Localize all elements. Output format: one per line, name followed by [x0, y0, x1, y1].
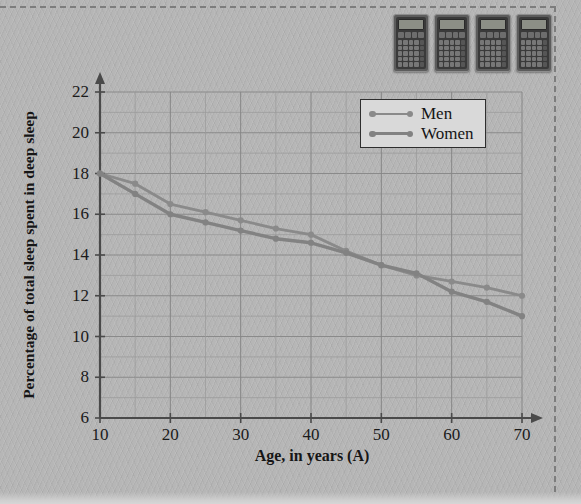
data-point — [167, 211, 173, 217]
chart-legend: MenWomen — [360, 99, 486, 148]
y-tick-label: 22 — [0, 82, 89, 102]
data-point — [238, 217, 244, 223]
x-tick-label: 10 — [80, 425, 120, 445]
data-point — [273, 236, 279, 242]
data-point — [484, 299, 490, 305]
line-chart: Percentage of total sleep spent in deep … — [0, 0, 581, 504]
y-tick-label: 18 — [0, 164, 89, 184]
data-point — [484, 285, 490, 291]
data-point — [238, 227, 244, 233]
data-point — [97, 170, 103, 176]
data-point — [167, 201, 173, 207]
legend-item-women: Women — [369, 125, 473, 142]
x-tick-label: 50 — [361, 425, 401, 445]
y-tick-label: 12 — [0, 286, 89, 306]
data-point — [413, 270, 419, 276]
data-point — [132, 181, 138, 187]
data-point — [202, 219, 208, 225]
x-tick-label: 60 — [432, 425, 472, 445]
data-point — [519, 313, 525, 319]
legend-swatch-icon — [369, 108, 413, 120]
legend-swatch-icon — [369, 128, 413, 140]
x-tick-label: 20 — [150, 425, 190, 445]
x-tick-label: 40 — [291, 425, 331, 445]
data-point — [519, 293, 525, 299]
y-tick-label: 16 — [0, 204, 89, 224]
data-point — [449, 289, 455, 295]
data-point — [273, 225, 279, 231]
page-canvas: Percentage of total sleep spent in deep … — [0, 0, 581, 504]
data-point — [132, 191, 138, 197]
x-tick-label: 70 — [502, 425, 542, 445]
data-point — [308, 240, 314, 246]
data-point — [308, 232, 314, 238]
legend-label: Men — [421, 105, 452, 122]
y-tick-label: 10 — [0, 327, 89, 347]
x-tick-label: 30 — [221, 425, 261, 445]
y-tick-label: 8 — [0, 367, 89, 387]
y-tick-label: 6 — [0, 408, 89, 428]
data-point — [449, 278, 455, 284]
legend-item-men: Men — [369, 105, 473, 122]
data-point — [378, 262, 384, 268]
x-axis-title: Age, in years (A) — [100, 447, 524, 465]
data-point — [202, 209, 208, 215]
legend-label: Women — [421, 125, 473, 142]
y-tick-label: 20 — [0, 123, 89, 143]
data-point — [343, 250, 349, 256]
y-tick-label: 14 — [0, 245, 89, 265]
